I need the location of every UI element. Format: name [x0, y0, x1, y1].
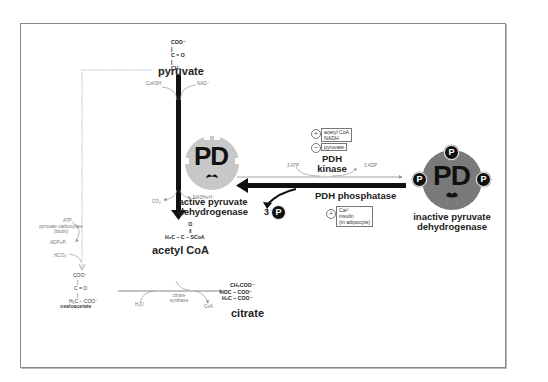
citrate-label: citrate — [231, 307, 264, 319]
acetyl-coa-label: acetyl CoA — [152, 244, 209, 256]
coash-in-curve — [162, 87, 177, 100]
oxaloacetate-label: oxaloacetate — [60, 303, 91, 309]
kinase-activators-box: acetyl CoANADH — [321, 128, 352, 142]
acetyl-coa-structure: O ‖ H₃C − C − SCoA — [165, 221, 205, 241]
nad-in-curve — [180, 85, 196, 100]
inactive-enzyme-letters: PD — [433, 160, 470, 192]
nad-label: NAD⁺ — [197, 81, 210, 86]
citrate-synthase-label: citrate synthase — [166, 293, 192, 304]
phosphatase-activators-box: Ca²⁺insulin(in adipocyte) — [336, 206, 373, 227]
kinase-activator-sign: + — [311, 129, 321, 139]
hco3-label: HCO₃⁻ — [54, 253, 69, 258]
active-enzyme-label: active pyruvatedehydrogenase — [176, 197, 250, 218]
co2-label: CO₂ — [152, 199, 161, 204]
released-phosphate-count: 3 — [264, 207, 269, 217]
coash-label: CoASH — [146, 81, 161, 86]
phosphate-badge-left: P — [412, 172, 427, 187]
carboxylase-dotted-path — [82, 70, 152, 268]
water-label: H₂O — [135, 302, 144, 307]
atp-label: ATP — [63, 218, 72, 223]
kinase-inhibitor-sign: − — [311, 143, 321, 153]
kinase-adp-label: 3 ADP — [364, 163, 377, 168]
pyruvate-carboxylase-label: pyruvate carboxylase(biotin) — [36, 224, 86, 235]
kinase-atp-label: 3 ATP — [287, 163, 299, 168]
phosphatase-activator-sign: + — [326, 209, 336, 219]
coa-label: CoA — [204, 304, 213, 309]
pdh-phosphatase-label: PDH phosphatase — [315, 190, 396, 201]
released-phosphate-badge: P — [271, 205, 286, 220]
adp-pi-label: ADP+Pᵢ — [50, 240, 66, 245]
active-enzyme-letters: PD — [194, 141, 228, 172]
oxaloacetate-structure: COO⁻ | C = O | H₂C − COO⁻ — [69, 272, 98, 305]
inactive-enzyme-label: inactive pyruvatedehydrogenase — [406, 212, 498, 233]
pyruvate-label: pyruvate — [158, 65, 204, 77]
phosphate-badge-top: P — [444, 145, 459, 160]
kinase-inhibitors-box: pyruvate — [321, 143, 347, 151]
phosphate-badge-right: P — [476, 172, 491, 187]
hco3-curve — [70, 254, 81, 262]
phosphate-release-curve — [268, 189, 296, 204]
citrate-structure: CH₂COO⁻ HOC − COO⁻ H₂C − COO⁻ — [220, 282, 255, 302]
pdh-kinase-label: PDHkinase — [312, 154, 352, 174]
